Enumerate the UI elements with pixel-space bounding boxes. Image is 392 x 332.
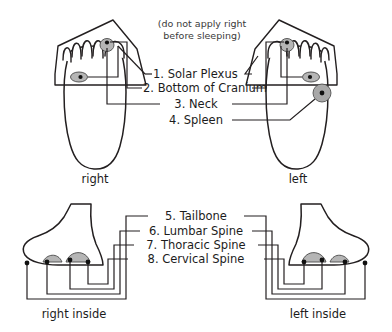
right-sole-foot: right bbox=[55, 20, 146, 186]
left-inside-outline bbox=[289, 204, 369, 265]
right-inside-foot: right inside bbox=[23, 204, 106, 321]
marker-dot-solar-plexus-left bbox=[308, 75, 312, 79]
marker-dot-spleen-left bbox=[320, 91, 325, 96]
marker-dot-solar-plexus-right bbox=[78, 75, 82, 79]
right-sole-caption: right bbox=[81, 172, 109, 186]
reflexology-chart: right left bbox=[0, 0, 392, 332]
left-sole-outline bbox=[266, 46, 328, 169]
toe-4-right bbox=[72, 43, 81, 59]
left-inside-foot: left inside bbox=[289, 204, 369, 321]
warning-note-line2: before sleeping) bbox=[163, 30, 240, 41]
toe-3-right bbox=[82, 41, 92, 58]
chart-canvas: right left bbox=[0, 0, 392, 332]
point-thoracic-right bbox=[68, 258, 73, 263]
label-neck: 3. Neck bbox=[174, 97, 218, 111]
label-spleen: 4. Spleen bbox=[169, 113, 223, 127]
left-inside-caption: left inside bbox=[290, 307, 346, 321]
label-solar-plexus: 1. Solar Plexus bbox=[153, 67, 238, 81]
right-sole-outline bbox=[64, 46, 126, 169]
marker-dot-cranium-right bbox=[105, 40, 109, 44]
left-sole-foot: left bbox=[246, 20, 337, 186]
toe-5-left bbox=[321, 48, 329, 62]
label-tailbone: 5. Tailbone bbox=[165, 209, 227, 223]
bottom-text-block: 5. Tailbone 6. Lumbar Spine 7. Thoracic … bbox=[146, 209, 245, 266]
point-tailbone-right bbox=[25, 261, 30, 266]
toe-5-right bbox=[63, 48, 71, 62]
point-tailbone-left bbox=[363, 261, 368, 266]
toe-4-left bbox=[311, 43, 320, 59]
warning-note-line1: (do not apply right bbox=[158, 18, 247, 29]
point-thoracic-left bbox=[320, 258, 325, 263]
label-cervical-spine: 8. Cervical Spine bbox=[148, 252, 245, 266]
label-lumbar-spine: 6. Lumbar Spine bbox=[149, 224, 243, 238]
label-bottom-of-cranium: 2. Bottom of Cranium bbox=[143, 81, 267, 95]
point-cervical-left bbox=[302, 260, 307, 265]
right-inside-outline bbox=[23, 204, 103, 265]
point-lumbar-left bbox=[343, 260, 348, 265]
marker-dot-cranium-left bbox=[285, 40, 289, 44]
top-text-block: (do not apply right before sleeping) 1. … bbox=[143, 18, 267, 127]
point-cervical-right bbox=[86, 260, 91, 265]
left-sole-caption: left bbox=[289, 172, 308, 186]
toe-3-left bbox=[300, 41, 310, 58]
point-lumbar-right bbox=[45, 260, 50, 265]
leader-solar-plexus-label-left bbox=[245, 56, 258, 74]
label-thoracic-spine: 7. Thoracic Spine bbox=[146, 238, 245, 252]
right-inside-caption: right inside bbox=[42, 307, 107, 321]
